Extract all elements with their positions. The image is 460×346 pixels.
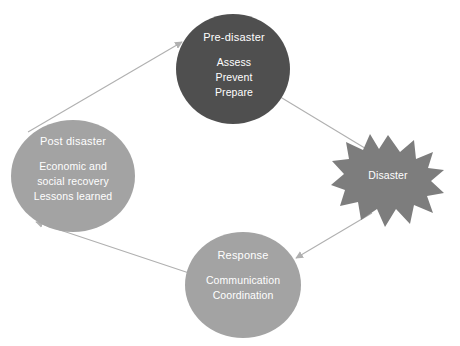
diagram-canvas: Pre-disaster Assess Prevent Prepare Post… — [0, 0, 460, 346]
node-pre-disaster[interactable] — [176, 14, 290, 124]
connector-post-to-pre — [28, 42, 182, 132]
connector-disaster-to-response — [296, 213, 372, 258]
node-response[interactable] — [185, 232, 301, 338]
node-post-disaster[interactable] — [11, 120, 135, 232]
connector-pre-to-disaster — [277, 95, 373, 153]
node-disaster-star[interactable] — [331, 134, 444, 227]
diagram-svg — [0, 0, 460, 346]
